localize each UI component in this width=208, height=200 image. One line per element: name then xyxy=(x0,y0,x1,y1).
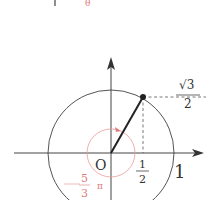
angle-label-numerator: 5 xyxy=(81,172,88,185)
y-label-denominator: 2 xyxy=(184,97,192,111)
x-label-denominator: 2 xyxy=(139,173,146,186)
top-red-glyph: θ xyxy=(85,0,90,8)
angle-label-denominator: 3 xyxy=(81,187,88,200)
angle-arrow-icon xyxy=(115,127,121,132)
unit-circle-diagram: θ √3 2 O 1 2 1 5 3 π xyxy=(0,0,208,200)
x-axis-unit-label: 1 xyxy=(174,161,185,182)
radius-line xyxy=(111,97,143,153)
angle-label-pi: π xyxy=(97,181,103,191)
y-label-numerator: √3 xyxy=(179,78,194,92)
terminal-point xyxy=(140,94,146,100)
origin-label: O xyxy=(95,157,106,173)
x-label-numerator: 1 xyxy=(139,158,146,171)
